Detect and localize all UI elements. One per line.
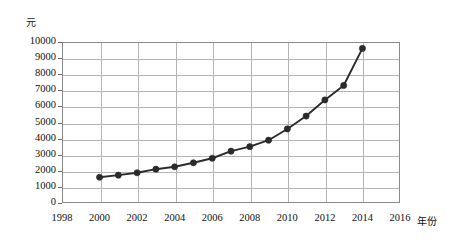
series-data-point	[265, 137, 271, 143]
series-data-point	[96, 174, 102, 180]
series-data-point	[153, 166, 159, 172]
series-data-point	[190, 160, 196, 166]
series-data-point	[228, 148, 234, 154]
series-data-point	[284, 126, 290, 132]
series-data-point	[247, 144, 253, 150]
data-series-layer	[0, 0, 450, 245]
series-line	[100, 48, 363, 177]
series-data-point	[209, 155, 215, 161]
chart-canvas: 元 01000200030004000500060007000800090001…	[0, 0, 450, 245]
series-data-point	[134, 170, 140, 176]
series-data-point	[172, 164, 178, 170]
series-data-point	[341, 82, 347, 88]
series-data-point	[322, 97, 328, 103]
series-data-point	[115, 172, 121, 178]
series-data-point	[303, 113, 309, 119]
series-data-point	[359, 45, 365, 51]
